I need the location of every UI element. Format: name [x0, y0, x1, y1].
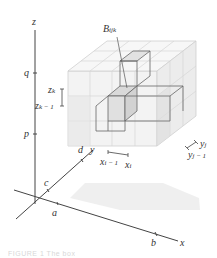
- y-upper-label: yj: [200, 139, 206, 149]
- z-upper-label: zk: [48, 85, 55, 95]
- z-interval-bracket: [60, 89, 64, 106]
- tick-label-q: q: [24, 68, 29, 78]
- figure-caption: FIGURE 1 The box: [8, 250, 75, 258]
- x-axis-label: x: [180, 238, 184, 248]
- x-interval-bracket: [108, 150, 128, 157]
- box-diagram: [0, 0, 217, 258]
- tick-label-p: p: [24, 129, 29, 139]
- tick-label-a: a: [52, 208, 57, 218]
- tick-label-b: b: [151, 238, 156, 248]
- tick-label-d: d: [78, 145, 83, 155]
- y-axis-label: y: [90, 145, 94, 155]
- tick-a: [57, 202, 58, 205]
- xy-region-shadow: [70, 183, 200, 210]
- z-axis-label: z: [32, 17, 36, 27]
- x-upper-label: xi: [125, 160, 131, 170]
- subbox-label: Bijk: [103, 24, 116, 34]
- x-lower-label: xi − 1: [100, 157, 118, 167]
- tick-label-c: c: [44, 178, 48, 188]
- y-lower-label: yj − 1: [188, 150, 206, 160]
- z-lower-label: zk − 1: [35, 101, 54, 111]
